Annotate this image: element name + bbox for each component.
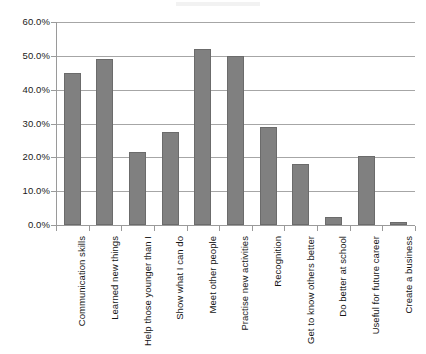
y-axis-label: 10.0% [2, 186, 50, 196]
y-axis-label: 40.0% [2, 85, 50, 95]
x-axis-tick [284, 226, 285, 231]
x-axis-tick [317, 226, 318, 231]
bar [292, 164, 309, 225]
x-axis-category-label: Practise new activities [239, 236, 250, 331]
x-axis-tick [121, 226, 122, 231]
x-axis-tick [382, 226, 383, 231]
y-axis-label: 60.0% [2, 17, 50, 27]
x-axis-category-label: Useful for future career [370, 236, 381, 334]
bar [260, 127, 277, 225]
bar [194, 49, 211, 225]
bar [358, 156, 375, 225]
x-axis-category-label: Get to know others better [305, 236, 316, 344]
y-axis-label: 30.0% [2, 119, 50, 129]
x-axis-category-label: Communication skills [76, 236, 87, 326]
x-axis-tick [350, 226, 351, 231]
gridline [56, 22, 415, 23]
bar [390, 222, 407, 225]
x-axis-category-label: Learned new things [109, 236, 120, 320]
bar [325, 217, 342, 225]
x-axis-category-label: Help those younger than I [142, 236, 153, 346]
x-axis-line [56, 225, 415, 226]
top-page-artifact [176, 2, 260, 6]
x-axis-tick [219, 226, 220, 231]
x-axis-tick [56, 226, 57, 231]
y-axis-label: 50.0% [2, 51, 50, 61]
y-axis-label: 0.0% [2, 220, 50, 230]
x-axis-category-label: Meet other people [207, 236, 218, 313]
y-axis-line [56, 22, 57, 226]
bar-chart: 0.0%10.0%20.0%30.0%40.0%50.0%60.0% Commu… [0, 0, 426, 354]
x-axis-tick [154, 226, 155, 231]
bar [129, 152, 146, 225]
x-axis-tick [89, 226, 90, 231]
x-axis-category-label: Show what I can do [174, 236, 185, 320]
x-axis-category-label: Create a business [403, 236, 414, 313]
y-axis-label: 20.0% [2, 152, 50, 162]
x-axis-tick [415, 226, 416, 231]
bar [64, 73, 81, 225]
x-axis-category-label: Do better at school [337, 236, 348, 317]
x-axis-category-label: Recognition [272, 236, 283, 287]
bar [162, 132, 179, 225]
bar [96, 59, 113, 225]
x-axis-tick [252, 226, 253, 231]
bar [227, 56, 244, 225]
x-axis-tick [187, 226, 188, 231]
